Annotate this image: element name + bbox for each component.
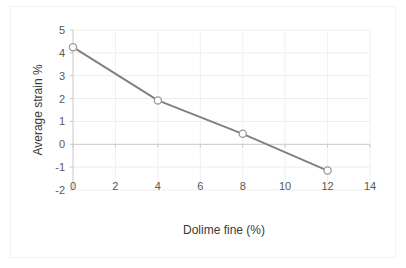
data-point-marker [239,130,246,137]
x-tick-label: 6 [197,180,203,192]
data-point-marker [154,97,161,104]
y-tick-label: 3 [59,70,65,82]
x-tick-label: 8 [240,180,246,192]
y-tick-label: -2 [55,184,65,196]
x-tick-label: 4 [155,180,161,192]
line-chart: 5 4 3 2 1 0 -1 -2 0 2 4 6 8 10 12 14 Dol… [0,0,406,268]
y-tick-label: 0 [59,138,65,150]
y-axis-title: Average strain % [31,64,45,155]
y-tick-label: -1 [55,161,65,173]
plot-area-background [73,30,370,190]
x-axis-title: Dolime fine (%) [183,223,265,237]
y-tick-label: 2 [59,93,65,105]
y-tick-labels: 5 4 3 2 1 0 -1 -2 [55,24,65,196]
chart-figure: 5 4 3 2 1 0 -1 -2 0 2 4 6 8 10 12 14 Dol… [0,0,406,268]
x-tick-label: 10 [279,180,291,192]
x-tick-label: 12 [321,180,333,192]
y-tick-label: 1 [59,115,65,127]
y-tick-label: 5 [59,24,65,36]
data-point-marker [324,167,331,174]
data-point-marker [69,44,76,51]
x-tick-label: 2 [112,180,118,192]
x-tick-label: 0 [70,180,76,192]
x-tick-label: 14 [364,180,376,192]
y-tick-label: 4 [59,47,65,59]
